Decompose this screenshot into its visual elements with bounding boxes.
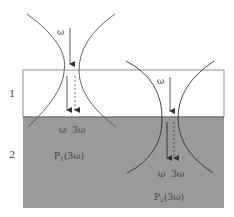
left-harmonic-labels: ω3ω [59,125,85,135]
layer-1 [23,70,224,117]
layer-1-label: 1 [9,88,15,99]
right-harmonic-labels: ω3ω [158,169,184,179]
p2-label: P2(3ω) [154,192,184,203]
left-omega-label: ω [57,27,64,37]
thg-diagram: 1 2 ω ω3ω P1(3ω) ω ω3ω P2(3ω) [0,0,234,217]
layer-2 [23,117,224,208]
right-omega-label: ω [157,76,164,86]
p1-label: P1(3ω) [54,151,84,162]
layer-2-label: 2 [9,149,15,160]
